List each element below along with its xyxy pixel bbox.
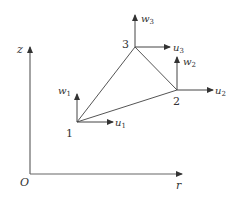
- w2-label: w2: [183, 56, 196, 69]
- node-3: 3 w3 u3: [122, 13, 184, 55]
- node-2: 2 w2 u2: [173, 56, 226, 108]
- node-2-label: 2: [173, 95, 180, 108]
- triangle-element: [77, 47, 177, 122]
- z-axis-label: z: [16, 43, 23, 56]
- u1-label: u1: [115, 117, 126, 130]
- origin-label: O: [20, 176, 29, 189]
- triangle-element-diagram: z r O 1 w1 u1 3 w3 u3 2 w2 u2: [0, 0, 237, 198]
- u3-label: u3: [173, 42, 184, 55]
- u2-label: u2: [215, 85, 226, 98]
- edge-3-2: [135, 47, 177, 90]
- w1-label: w1: [58, 85, 71, 98]
- edge-1-3: [77, 47, 135, 122]
- r-axis-label: r: [176, 179, 182, 192]
- coordinate-axes: z r O: [16, 43, 182, 192]
- node-1: 1 w1 u1: [58, 85, 126, 140]
- w3-label: w3: [141, 13, 154, 26]
- edge-1-2: [77, 90, 177, 122]
- node-3-label: 3: [122, 38, 129, 51]
- node-1-label: 1: [66, 127, 73, 140]
